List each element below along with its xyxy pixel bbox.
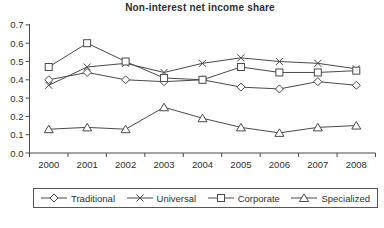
legend-label: Specialized (321, 193, 370, 204)
triangle-marker-icon (160, 103, 169, 111)
square-marker-icon (122, 58, 129, 65)
x-tick-label: 2006 (269, 159, 290, 170)
y-tick-label: 0.6 (10, 38, 23, 49)
x-tick-label: 2003 (153, 159, 174, 170)
diamond-marker-icon (275, 85, 283, 93)
triangle-marker-icon (198, 114, 207, 122)
x-tick-label: 2001 (77, 159, 98, 170)
x-tick-label: 2002 (115, 159, 136, 170)
triangle-marker-icon (291, 193, 317, 203)
diamond-marker-icon (41, 193, 67, 203)
y-tick-label: 0.3 (10, 93, 23, 104)
x-tick-label: 2008 (346, 159, 367, 170)
x-tick-label: 2007 (307, 159, 328, 170)
legend: TraditionalUniversalCorporateSpecialized (33, 188, 378, 208)
diamond-marker-icon (352, 81, 360, 89)
legend-item-universal: Universal (127, 193, 197, 204)
line-chart-figure: Non-interest net income share 0.00.10.20… (0, 0, 384, 228)
legend-item-traditional: Traditional (41, 193, 115, 204)
square-marker-icon (84, 40, 91, 47)
y-tick-label: 0.2 (10, 111, 23, 122)
diamond-marker-icon (122, 76, 130, 84)
square-marker-icon (237, 63, 244, 70)
square-marker-icon (276, 69, 283, 76)
legend-label: Traditional (71, 193, 115, 204)
diamond-marker-icon (314, 78, 322, 86)
y-tick-label: 0.7 (10, 19, 23, 30)
x-tick-label: 2004 (192, 159, 213, 170)
square-marker-icon (353, 67, 360, 74)
diamond-marker-icon (50, 194, 58, 202)
plot-area: 0.00.10.20.30.40.50.60.72000200120022003… (0, 0, 384, 188)
x-marker-icon (127, 193, 153, 203)
y-tick-label: 0.1 (10, 129, 23, 140)
legend-label: Universal (157, 193, 197, 204)
legend-item-corporate: Corporate (208, 193, 280, 204)
legend-item-specialized: Specialized (291, 193, 370, 204)
square-marker-icon (161, 74, 168, 81)
y-tick-label: 0.4 (10, 74, 23, 85)
square-marker-icon (45, 63, 52, 70)
x-tick-label: 2000 (38, 159, 59, 170)
diamond-marker-icon (237, 83, 245, 91)
y-tick-label: 0.5 (10, 56, 23, 67)
x-tick-label: 2005 (230, 159, 251, 170)
y-tick-label: 0.0 (10, 148, 23, 159)
square-marker-icon (199, 76, 206, 83)
square-marker-icon (217, 195, 224, 202)
square-marker-icon (208, 193, 234, 203)
square-marker-icon (314, 69, 321, 76)
legend-label: Corporate (238, 193, 280, 204)
